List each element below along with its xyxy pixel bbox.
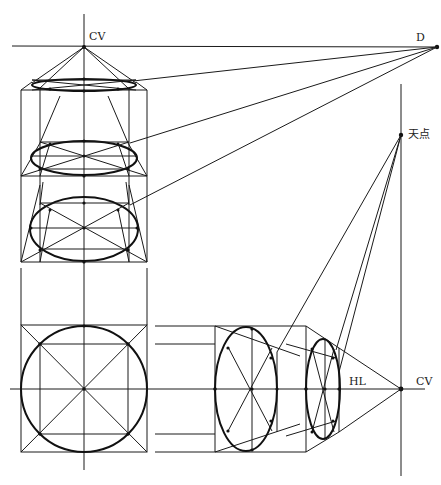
perspective-drawing: CV D bbox=[0, 0, 441, 485]
top-horizon bbox=[12, 14, 439, 470]
right-cv-cone bbox=[339, 348, 401, 432]
label-cv-top: CV bbox=[89, 30, 106, 43]
tiandian-rays bbox=[277, 135, 401, 372]
d-rays bbox=[130, 47, 437, 205]
label-d: D bbox=[416, 31, 425, 44]
label-hl: HL bbox=[349, 375, 367, 388]
label-tiandian: 天点 bbox=[408, 128, 430, 141]
label-cv-right: CV bbox=[416, 375, 433, 388]
